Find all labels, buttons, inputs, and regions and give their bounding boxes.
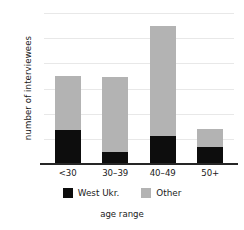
bar-segment[interactable] <box>55 76 81 130</box>
bar-segment[interactable] <box>197 147 223 164</box>
x-axis-title: age range <box>0 209 244 219</box>
chart-legend: West Ukr.Other <box>0 188 244 198</box>
bar-segment[interactable] <box>55 130 81 164</box>
gridline <box>44 63 234 64</box>
bar-segment[interactable] <box>150 26 176 136</box>
gridline <box>44 13 234 14</box>
legend-item[interactable]: West Ukr. <box>63 188 120 198</box>
legend-item[interactable]: Other <box>141 188 181 198</box>
gridline <box>44 38 234 39</box>
gray-square-icon <box>141 188 151 198</box>
legend-item-label: Other <box>156 188 181 198</box>
black-square-icon <box>63 188 73 198</box>
bar-segment[interactable] <box>102 77 128 152</box>
legend-item-label: West Ukr. <box>78 188 120 198</box>
stacked-bar-chart: number of interviewees 051015202530 <303… <box>0 0 244 230</box>
plot-area <box>44 13 234 164</box>
bar-segment[interactable] <box>197 129 223 147</box>
x-tick-label: 50+ <box>180 168 240 178</box>
x-axis-line <box>40 163 238 165</box>
bar-segment[interactable] <box>150 136 176 164</box>
y-axis-title: number of interviewees <box>23 13 33 163</box>
plot-inner <box>44 13 234 164</box>
